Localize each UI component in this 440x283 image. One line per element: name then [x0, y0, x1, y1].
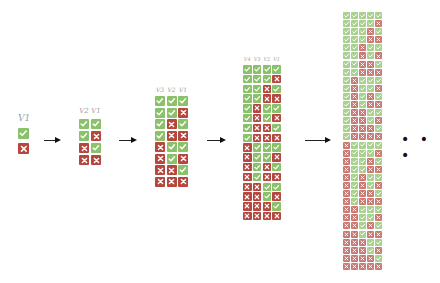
truth-table-row — [343, 109, 383, 116]
check-icon — [367, 247, 374, 254]
check-icon — [243, 85, 252, 94]
variable-label: V2 — [79, 108, 89, 119]
check-icon — [253, 143, 262, 152]
check-icon — [359, 28, 366, 35]
check-icon — [253, 163, 262, 172]
cross-icon — [367, 263, 374, 270]
check-icon — [351, 150, 358, 157]
truth-table-row — [343, 150, 383, 157]
variable-labels: V1 — [18, 114, 33, 128]
cross-icon — [343, 206, 350, 213]
check-icon — [253, 65, 262, 74]
check-icon — [367, 85, 374, 92]
check-icon — [351, 182, 358, 189]
check-icon — [343, 93, 350, 100]
cross-icon — [359, 125, 366, 132]
cross-icon — [367, 255, 374, 262]
truth-table-row — [18, 143, 33, 154]
check-icon — [367, 239, 374, 246]
check-icon — [359, 20, 366, 27]
variable-label: V4 — [243, 57, 252, 65]
cross-icon — [343, 239, 350, 246]
cross-icon — [375, 198, 382, 205]
variable-label: V1 — [18, 114, 29, 128]
truth-table-1-vars: V1 — [18, 114, 33, 158]
check-icon — [253, 153, 262, 162]
cross-icon — [359, 52, 366, 59]
check-icon — [343, 101, 350, 108]
check-icon — [167, 108, 177, 118]
arrow-right-icon — [44, 140, 59, 141]
cross-icon — [351, 231, 358, 238]
truth-table-row — [155, 119, 190, 129]
truth-table-row — [343, 239, 383, 246]
check-icon — [351, 44, 358, 51]
cross-icon — [367, 158, 374, 165]
check-icon — [91, 143, 101, 153]
check-icon — [367, 12, 374, 19]
cross-icon — [367, 61, 374, 68]
check-icon — [253, 75, 262, 84]
cross-icon — [359, 133, 366, 140]
variable-label: V1 — [178, 87, 188, 96]
check-icon — [367, 142, 374, 149]
truth-table-3-vars: V3V2V1 — [155, 87, 190, 188]
cross-icon — [367, 69, 374, 76]
cross-icon — [167, 177, 177, 187]
cross-icon — [343, 142, 350, 149]
truth-table-row — [343, 93, 383, 100]
cross-icon — [243, 192, 252, 201]
cross-icon — [359, 69, 366, 76]
cross-icon — [263, 85, 272, 94]
check-icon — [375, 12, 382, 19]
truth-table-row — [243, 124, 282, 133]
cross-icon — [359, 263, 366, 270]
variable-labels: V3V2V1 — [155, 87, 190, 96]
truth-table-row — [343, 247, 383, 254]
cross-icon — [343, 214, 350, 221]
cross-icon — [343, 222, 350, 229]
check-icon — [343, 85, 350, 92]
truth-table-row — [343, 174, 383, 181]
check-icon — [243, 124, 252, 133]
check-icon — [343, 109, 350, 116]
truth-table-5-vars — [343, 4, 383, 271]
check-icon — [351, 174, 358, 181]
cross-icon — [351, 239, 358, 246]
check-icon — [263, 192, 272, 201]
cross-icon — [272, 173, 281, 182]
cross-icon — [367, 222, 374, 229]
check-icon — [359, 36, 366, 43]
check-icon — [155, 108, 165, 118]
truth-table-row — [155, 165, 190, 175]
check-icon — [272, 65, 281, 74]
check-icon — [367, 150, 374, 157]
cross-icon — [253, 134, 262, 143]
check-icon — [167, 96, 177, 106]
check-icon — [367, 77, 374, 84]
cross-icon — [367, 28, 374, 35]
check-icon — [367, 214, 374, 221]
cross-icon — [359, 182, 366, 189]
cross-icon — [243, 143, 252, 152]
cross-icon — [263, 94, 272, 103]
truth-table-row — [79, 155, 103, 165]
check-icon — [375, 44, 382, 51]
truth-table-row — [343, 263, 383, 270]
check-icon — [351, 12, 358, 19]
cross-icon — [359, 255, 366, 262]
cross-icon — [375, 52, 382, 59]
truth-table-row — [343, 52, 383, 59]
truth-table-row — [243, 192, 282, 201]
truth-table-row — [343, 28, 383, 35]
cross-icon — [253, 192, 262, 201]
check-icon — [351, 69, 358, 76]
check-icon — [263, 114, 272, 123]
cross-icon — [367, 231, 374, 238]
cross-icon — [253, 104, 262, 113]
check-icon — [367, 206, 374, 213]
truth-table-row — [343, 36, 383, 43]
cross-icon — [351, 101, 358, 108]
cross-icon — [243, 202, 252, 211]
cross-icon — [351, 93, 358, 100]
